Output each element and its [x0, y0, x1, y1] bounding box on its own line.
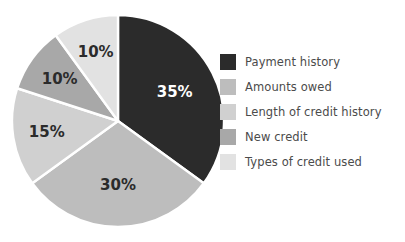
legend-swatch-icon — [220, 154, 236, 170]
pie-slice-value-label: 10% — [78, 43, 114, 61]
legend-item[interactable]: Length of credit history — [220, 99, 402, 124]
pie-chart: 35%30%15%10%10% — [11, 14, 225, 228]
legend-item[interactable]: Amounts owed — [220, 74, 402, 99]
pie-slices — [12, 15, 224, 227]
legend-item[interactable]: Payment history — [220, 49, 402, 74]
legend-item-label: Length of credit history — [245, 105, 382, 119]
legend-swatch-icon — [220, 79, 236, 95]
legend-item[interactable]: New credit — [220, 124, 402, 149]
pie-slice-value-label: 15% — [29, 123, 65, 141]
pie-slice-value-label: 30% — [100, 176, 136, 194]
pie-chart-figure: 35%30%15%10%10% Payment historyAmounts o… — [0, 0, 405, 242]
legend-swatch-icon — [220, 129, 236, 145]
pie-slice-value-label: 10% — [42, 70, 78, 88]
legend-item-label: Amounts owed — [245, 80, 332, 94]
legend-item-label: New credit — [245, 130, 308, 144]
legend-item[interactable]: Types of credit used — [220, 149, 402, 174]
legend-item-label: Payment history — [245, 55, 340, 69]
pie-slice-value-label: 35% — [157, 83, 193, 101]
pie-chart-svg: 35%30%15%10%10% — [11, 14, 225, 228]
chart-legend: Payment historyAmounts owedLength of cre… — [220, 49, 402, 174]
legend-swatch-icon — [220, 104, 236, 120]
legend-swatch-icon — [220, 54, 236, 70]
legend-item-label: Types of credit used — [245, 155, 362, 169]
